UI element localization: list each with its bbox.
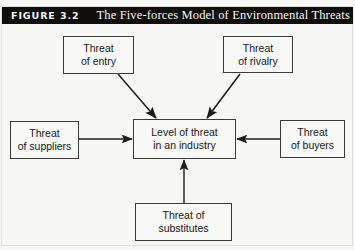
figure-container: FIGURE 3.2 The Five-forces Model of Envi… xyxy=(0,0,355,250)
node-label-line: Threat of xyxy=(162,209,204,222)
node-label-line: of buyers xyxy=(291,139,334,152)
five-forces-diagram: Threat of entry Threat of rivalry Threat… xyxy=(0,0,355,250)
node-label-line: Level of threat xyxy=(151,126,218,139)
node-label-line: substitutes xyxy=(158,222,208,235)
node-label-line: of rivalry xyxy=(238,55,278,68)
node-label-line: Threat xyxy=(243,42,273,55)
node-label-line: Threat xyxy=(29,127,59,140)
node-threat-of-suppliers[interactable]: Threat of suppliers xyxy=(10,121,79,159)
node-threat-of-rivalry[interactable]: Threat of rivalry xyxy=(223,36,293,73)
node-threat-of-substitutes[interactable]: Threat of substitutes xyxy=(135,203,232,241)
arrow-entry-to-center xyxy=(118,74,156,118)
node-label-line: of suppliers xyxy=(18,140,72,153)
node-label-line: in an industry xyxy=(153,139,215,152)
node-level-of-threat-in-industry[interactable]: Level of threat in an industry xyxy=(133,119,236,159)
node-label-line: Threat xyxy=(83,42,113,55)
node-label-line: Threat xyxy=(297,126,327,139)
node-threat-of-buyers[interactable]: Threat of buyers xyxy=(280,120,345,158)
node-threat-of-entry[interactable]: Threat of entry xyxy=(63,36,134,74)
arrow-rivalry-to-center xyxy=(207,74,240,118)
node-label-line: of entry xyxy=(81,55,116,68)
